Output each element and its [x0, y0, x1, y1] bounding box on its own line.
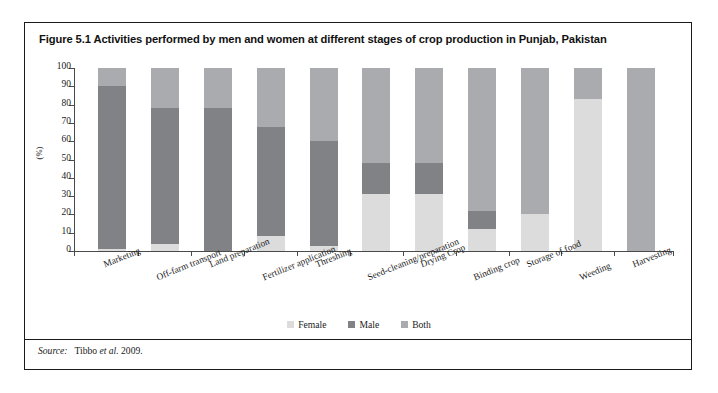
bar-segment-male — [151, 108, 179, 243]
bar-segment-both — [521, 68, 549, 214]
x-axis-labels: MarketingOff-farm transportLand preparat… — [74, 254, 714, 324]
bar-drying-crop[interactable] — [415, 68, 443, 251]
source-divider — [25, 339, 691, 340]
bar-segment-male — [415, 163, 443, 194]
source-note: Source: Tibbo et al. 2009. — [38, 345, 143, 356]
y-tick-label: 50 — [62, 153, 72, 163]
y-tick-label: 70 — [62, 116, 72, 126]
legend-swatch-both — [401, 321, 408, 328]
x-axis-label: Weeding — [578, 261, 612, 283]
bar-segment-both — [574, 68, 602, 99]
legend-label: Female — [298, 319, 326, 330]
y-axis-title: (%) — [34, 147, 44, 160]
x-axis-label: Binding crop — [472, 255, 521, 283]
bar-segment-female — [468, 229, 496, 251]
bar-harvesting[interactable] — [627, 68, 655, 251]
bar-segment-male — [362, 163, 390, 194]
legend-item-female[interactable]: Female — [287, 319, 326, 330]
bar-seed-cleaning-preparation[interactable] — [362, 68, 390, 251]
legend-swatch-female — [287, 321, 294, 328]
bar-segment-both — [468, 68, 496, 211]
bar-segment-both — [362, 68, 390, 163]
bar-segment-both — [204, 68, 232, 108]
bar-segment-male — [468, 211, 496, 229]
y-tick-label: 90 — [62, 79, 72, 89]
bar-segment-female — [521, 214, 549, 251]
bar-segment-both — [310, 68, 338, 141]
bar-segment-male — [310, 141, 338, 245]
chart-legend: FemaleMaleBoth — [25, 319, 693, 330]
bar-threshing[interactable] — [310, 68, 338, 251]
bar-segment-both — [415, 68, 443, 163]
bar-segment-both — [98, 68, 126, 86]
y-tick-label: 30 — [62, 189, 72, 199]
legend-swatch-male — [348, 321, 355, 328]
bar-segment-both — [627, 68, 655, 251]
bar-segment-male — [257, 127, 285, 237]
bar-land-preparation[interactable] — [204, 68, 232, 251]
source-label: Source: — [38, 345, 67, 356]
bar-segment-female — [574, 99, 602, 251]
bar-storage-of-food[interactable] — [521, 68, 549, 251]
bar-segment-female — [362, 194, 390, 251]
bar-off-farm-transport[interactable] — [151, 68, 179, 251]
legend-label: Male — [359, 319, 379, 330]
bar-segment-male — [204, 108, 232, 251]
y-tick-label: 20 — [62, 207, 72, 217]
bar-weeding[interactable] — [574, 68, 602, 251]
legend-item-both[interactable]: Both — [401, 319, 431, 330]
bar-binding-crop[interactable] — [468, 68, 496, 251]
bar-segment-both — [151, 68, 179, 108]
y-axis-line — [74, 68, 75, 252]
legend-item-male[interactable]: Male — [348, 319, 379, 330]
legend-label: Both — [412, 319, 431, 330]
y-tick-label: 10 — [62, 226, 72, 236]
x-axis-line — [74, 251, 674, 252]
y-tick-label: 0 — [66, 244, 71, 254]
source-citation: Tibbo et al. 2009. — [74, 345, 142, 356]
figure-container: Figure 5.1 Activities performed by men a… — [24, 22, 692, 370]
y-tick-label: 80 — [62, 98, 72, 108]
bar-segment-female — [151, 244, 179, 251]
chart-plot-area: (%) 0102030405060708090100 — [74, 68, 674, 253]
bar-fertilizer-application[interactable] — [257, 68, 285, 251]
bar-marketing[interactable] — [98, 68, 126, 251]
bar-segment-both — [257, 68, 285, 127]
y-tick-label: 40 — [62, 171, 72, 181]
y-tick-label: 100 — [57, 61, 71, 71]
y-tick-label: 60 — [62, 134, 72, 144]
bar-segment-male — [98, 86, 126, 249]
figure-title: Figure 5.1 Activities performed by men a… — [39, 33, 679, 45]
